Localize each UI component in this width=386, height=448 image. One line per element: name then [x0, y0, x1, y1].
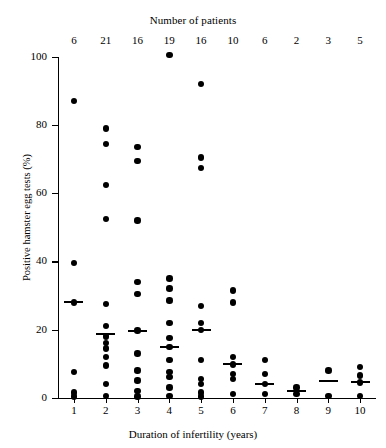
data-point: [166, 320, 172, 326]
data-point: [198, 165, 204, 171]
data-point: [103, 182, 109, 188]
patient-count-label: 16: [188, 34, 214, 46]
data-point: [230, 376, 236, 382]
data-point: [262, 371, 268, 377]
mean-marker: [96, 333, 115, 335]
mean-marker: [192, 329, 211, 331]
x-tick-label: 4: [156, 404, 182, 416]
patient-count-label: 19: [156, 34, 182, 46]
data-point: [134, 291, 140, 297]
data-point: [103, 345, 109, 351]
x-tick-mark: [265, 398, 266, 403]
x-tick-mark: [233, 398, 234, 403]
x-tick-label: 1: [61, 404, 87, 416]
y-tick-mark: [52, 330, 58, 331]
data-point: [230, 287, 236, 293]
data-point: [134, 217, 140, 223]
data-point: [293, 391, 299, 397]
data-point: [230, 354, 236, 360]
data-point: [71, 260, 77, 266]
data-point: [134, 350, 140, 356]
patient-count-label: 3: [315, 34, 341, 46]
y-axis-line: [58, 57, 59, 399]
mean-marker: [319, 380, 338, 382]
data-point: [357, 364, 363, 370]
mean-marker: [64, 301, 83, 303]
x-tick-mark: [297, 398, 298, 403]
y-tick-label: 40: [7, 254, 47, 266]
top-axis-title: Number of patients: [0, 14, 386, 26]
data-point: [166, 52, 172, 58]
data-point: [71, 393, 77, 399]
data-point: [262, 357, 268, 363]
y-tick-label: 100: [7, 50, 47, 62]
data-point: [262, 391, 268, 397]
x-tick-label: 6: [220, 404, 246, 416]
data-point: [134, 279, 140, 285]
data-point: [103, 362, 109, 368]
mean-marker: [223, 363, 242, 365]
patient-count-label: 6: [61, 34, 87, 46]
data-point: [134, 367, 140, 373]
x-tick-label: 8: [284, 404, 310, 416]
data-point: [198, 320, 204, 326]
y-tick-mark: [52, 261, 58, 262]
data-point: [166, 297, 172, 303]
data-point: [103, 125, 109, 131]
x-tick-label: 3: [125, 404, 151, 416]
data-point: [357, 372, 363, 378]
data-point: [198, 303, 204, 309]
patient-count-label: 21: [93, 34, 119, 46]
x-tick-label: 5: [188, 404, 214, 416]
data-point: [71, 98, 77, 104]
data-point: [103, 141, 109, 147]
x-tick-label: 9: [315, 404, 341, 416]
x-tick-label: 7: [252, 404, 278, 416]
data-point: [325, 393, 331, 399]
data-point: [230, 391, 236, 397]
data-point: [166, 374, 172, 380]
data-point: [325, 367, 331, 373]
data-point: [198, 81, 204, 87]
data-point: [198, 357, 204, 363]
data-point: [166, 275, 172, 281]
y-tick-label: 60: [7, 186, 47, 198]
mean-marker: [160, 346, 179, 348]
data-point: [166, 393, 172, 399]
patient-count-label: 16: [125, 34, 151, 46]
data-point: [198, 154, 204, 160]
data-point: [71, 369, 77, 375]
data-point: [134, 158, 140, 164]
data-point: [134, 393, 140, 399]
y-tick-label: 0: [7, 391, 47, 403]
data-point: [103, 323, 109, 329]
mean-marker: [351, 381, 370, 383]
data-point: [134, 377, 140, 383]
mean-marker: [128, 330, 147, 332]
patient-count-label: 2: [284, 34, 310, 46]
x-tick-label: 2: [93, 404, 119, 416]
data-point: [166, 285, 172, 291]
data-point: [103, 216, 109, 222]
scatter-plot-figure: Number of patients 621161916106235 Posit…: [0, 0, 386, 448]
data-point: [166, 384, 172, 390]
y-tick-label: 80: [7, 118, 47, 130]
y-tick-mark: [52, 398, 58, 399]
data-point: [230, 299, 236, 305]
mean-marker: [255, 383, 274, 385]
patient-count-label: 10: [220, 34, 246, 46]
data-point: [166, 357, 172, 363]
data-point: [166, 335, 172, 341]
data-point: [134, 144, 140, 150]
data-point: [198, 381, 204, 387]
y-tick-mark: [52, 193, 58, 194]
y-tick-mark: [52, 125, 58, 126]
y-tick-label: 20: [7, 323, 47, 335]
data-point: [103, 354, 109, 360]
y-tick-mark: [52, 57, 58, 58]
mean-marker: [287, 390, 306, 392]
data-point: [103, 381, 109, 387]
x-axis-title: Duration of infertility (years): [0, 428, 386, 440]
y-axis-title: Positive hamster egg tests (%): [21, 113, 32, 323]
patient-count-label: 6: [252, 34, 278, 46]
